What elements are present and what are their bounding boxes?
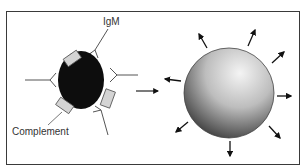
diagram-canvas [0,0,307,167]
lysed-cell [184,48,274,138]
igm-label: IgM [103,16,120,27]
complement-label: Complement [12,126,69,137]
complement-pointer [48,112,62,125]
